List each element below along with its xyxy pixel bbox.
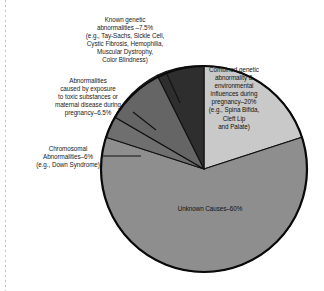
pie-label-unknown-causes: Unknown Causes–60% [150,205,270,213]
pie-label-known-genetic-abnormalities: Known genetic abnormalities –7.5% (e.g.,… [60,16,190,65]
pie-chart-figure: Known genetic abnormalities –7.5% (e.g.,… [0,0,324,291]
pie-label-combined-genetic-environmental: Combined genetic abnormality & environme… [196,66,272,131]
pie-label-toxic-exposure-maternal-disease: Abnormalities caused by exposure to toxi… [33,77,143,117]
pie-label-chromosomal-abnormalities: Chromosomal Abnormalities–6% (e.g., Down… [12,145,124,169]
